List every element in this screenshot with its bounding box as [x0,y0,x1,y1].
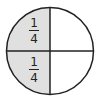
fraction-circle-diagram: 1 4 1 4 [0,0,99,100]
denominator: 4 [30,71,38,85]
numerator: 1 [30,55,38,69]
denominator: 4 [30,32,38,46]
numerator: 1 [30,16,38,30]
fraction-label-bottom-left: 1 4 [29,55,39,85]
fraction-label-top-left: 1 4 [29,16,39,46]
